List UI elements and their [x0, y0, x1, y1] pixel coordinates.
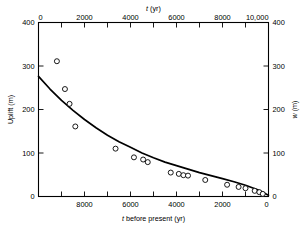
data-point — [145, 160, 150, 165]
axis-title-right: w (m) — [290, 101, 299, 119]
data-point — [113, 146, 118, 151]
tick-label-bottom: 8000 — [76, 200, 92, 209]
data-point — [131, 155, 136, 160]
tick-label-right: 400 — [273, 18, 285, 27]
data-point — [62, 87, 67, 92]
data-point — [236, 184, 241, 189]
data-point — [141, 157, 146, 162]
tick-label-left: 100 — [22, 149, 34, 158]
tick-label-top: 2000 — [76, 13, 92, 22]
axis-tick-labels: 0200040006000800010,00080006000400020000… — [22, 13, 285, 209]
data-point — [260, 191, 265, 196]
axis-title-bottom: t before present (yr) — [122, 214, 185, 223]
tick-label-left: 0 — [30, 192, 34, 201]
uplift-decay-chart: 0200040006000800010,00080006000400020000… — [0, 0, 307, 237]
tick-label-right: 100 — [273, 149, 285, 158]
tick-label-right: 300 — [273, 62, 285, 71]
data-point — [168, 170, 173, 175]
tick-label-top: 10,000 — [246, 13, 269, 22]
data-point — [67, 101, 72, 106]
data-point — [186, 173, 191, 178]
tick-label-top: 8000 — [214, 13, 230, 22]
tick-label-bottom: 4000 — [168, 200, 184, 209]
data-point — [54, 59, 59, 64]
chart-svg: 0200040006000800010,00080006000400020000… — [0, 0, 307, 237]
data-point — [203, 177, 208, 182]
axis-title-left: Uplift (m) — [6, 95, 15, 124]
tick-label-right: 0 — [273, 192, 277, 201]
tick-label-top: 0 — [39, 13, 43, 22]
tick-label-bottom: 0 — [264, 200, 268, 209]
tick-label-bottom: 6000 — [122, 200, 138, 209]
axis-title-top: t (yr) — [146, 4, 161, 13]
fit-curve-path — [39, 76, 269, 195]
data-points — [54, 59, 265, 197]
data-point — [73, 124, 78, 129]
tick-label-right: 200 — [273, 105, 285, 114]
tick-label-top: 6000 — [168, 13, 184, 22]
tick-label-bottom: 2000 — [214, 200, 230, 209]
tick-label-top: 4000 — [122, 13, 138, 22]
tick-label-left: 200 — [22, 105, 34, 114]
tick-label-left: 300 — [22, 62, 34, 71]
data-point — [225, 182, 230, 187]
fit-curve — [39, 76, 269, 195]
data-point — [243, 186, 248, 191]
tick-label-left: 400 — [22, 18, 34, 27]
